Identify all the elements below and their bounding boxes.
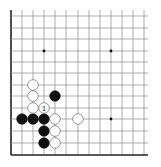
black-stone [39, 114, 50, 125]
white-stone [28, 91, 39, 102]
white-stone [28, 80, 39, 91]
star-point [43, 50, 46, 53]
black-stone [28, 114, 39, 125]
white-stone [50, 126, 61, 137]
black-stone [17, 114, 28, 125]
star-point [110, 50, 113, 53]
move-number-label: 1 [42, 105, 46, 112]
black-stone [39, 126, 50, 137]
black-stone [39, 138, 50, 149]
stones-layer: 1 [17, 80, 84, 149]
go-board[interactable]: 1 [0, 0, 161, 167]
star-point [110, 118, 113, 121]
white-stone [50, 114, 61, 125]
white-stone [28, 103, 39, 114]
white-stone: 1 [39, 103, 50, 114]
black-stone [50, 91, 61, 102]
white-stone [50, 138, 61, 149]
white-stone [73, 114, 84, 125]
